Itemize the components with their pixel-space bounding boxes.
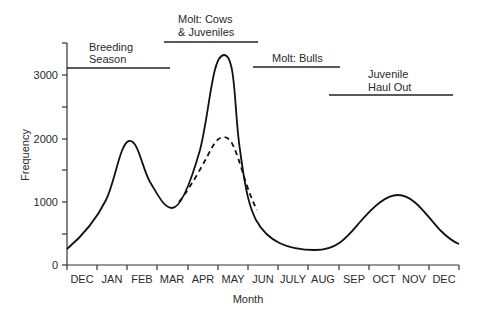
x-label-dec-end: DEC	[432, 273, 455, 285]
y-axis-title: Frequency	[19, 129, 31, 181]
period-molt-cows-juveniles: Molt: Cows & Juveniles	[164, 13, 258, 42]
x-label-aug: AUG	[311, 273, 335, 285]
x-label-july: JULY	[280, 273, 307, 285]
period-label-line2: Haul Out	[368, 81, 411, 93]
period-juvenile-haul-out: Juvenile Haul Out	[329, 68, 453, 95]
frequency-curve-dashed	[179, 137, 257, 210]
period-label-line1: Breeding	[89, 41, 133, 53]
x-label-nov: NOV	[402, 273, 427, 285]
y-tick-3000: 3000	[34, 69, 58, 81]
y-tick-labels: 0 1000 2000 3000	[34, 69, 58, 271]
x-label-mar: MAR	[160, 273, 185, 285]
period-label-line1: Molt: Bulls	[272, 52, 323, 64]
x-label-may: MAY	[221, 273, 245, 285]
period-molt-bulls: Molt: Bulls	[253, 52, 340, 67]
period-label-line1: Juvenile	[368, 68, 408, 80]
y-axis	[62, 43, 67, 265]
period-label-line1: Molt: Cows	[178, 13, 233, 25]
x-label-jun: JUN	[252, 273, 273, 285]
x-label-sep: SEP	[343, 273, 365, 285]
period-breeding-season: Breeding Season	[67, 41, 170, 68]
seasonal-frequency-chart: 0 1000 2000 3000 Frequency DEC JAN FEB M…	[0, 0, 479, 317]
x-label-dec-start: DEC	[70, 273, 93, 285]
period-label-line2: & Juveniles	[178, 26, 235, 38]
x-label-feb: FEB	[131, 273, 152, 285]
x-label-oct: OCT	[372, 273, 396, 285]
y-tick-2000: 2000	[34, 133, 58, 145]
x-axis	[67, 265, 459, 270]
x-tick-labels: DEC JAN FEB MAR APR MAY JUN JULY AUG SEP…	[70, 273, 455, 285]
x-axis-title: Month	[233, 293, 264, 305]
y-tick-0: 0	[52, 259, 58, 271]
y-tick-1000: 1000	[34, 196, 58, 208]
x-label-apr: APR	[192, 273, 215, 285]
period-label-line2: Season	[89, 53, 126, 65]
x-label-jan: JAN	[102, 273, 123, 285]
